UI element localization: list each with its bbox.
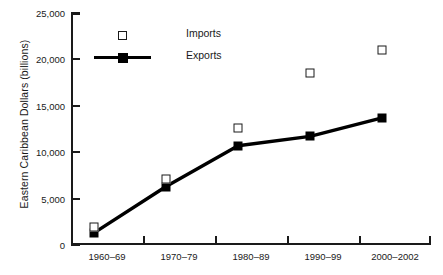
legend-label-imports: Imports bbox=[186, 27, 221, 39]
chart-container: Eastern Caribbean Dollars (billions) 05,… bbox=[0, 0, 443, 275]
y-tick-label: 25,000 bbox=[36, 8, 65, 19]
data-point-exports bbox=[234, 141, 243, 150]
filled-square-icon bbox=[118, 53, 128, 63]
data-point-exports bbox=[306, 132, 315, 141]
data-point-imports bbox=[90, 223, 99, 232]
data-point-imports bbox=[306, 69, 315, 78]
data-point-imports bbox=[234, 124, 243, 133]
y-axis-title: Eastern Caribbean Dollars (billions) bbox=[18, 14, 30, 234]
data-point-imports bbox=[378, 46, 387, 55]
open-square-icon bbox=[118, 31, 127, 40]
y-tick-label: 15,000 bbox=[36, 100, 65, 111]
y-tick-label: 20,000 bbox=[36, 54, 65, 65]
data-point-imports bbox=[162, 175, 171, 184]
data-point-exports bbox=[378, 113, 387, 122]
x-tick-label: 1970–79 bbox=[161, 251, 198, 262]
y-tick-label: 0 bbox=[60, 240, 65, 251]
x-tick-label: 2000–2002 bbox=[371, 251, 419, 262]
plot-area: 05,00010,00015,00020,00025,000 1960–6919… bbox=[71, 13, 431, 245]
x-tick-label: 1960–69 bbox=[89, 251, 126, 262]
legend-label-exports: Exports bbox=[186, 49, 222, 61]
x-tick-label: 1980–89 bbox=[233, 251, 270, 262]
y-tick-label: 10,000 bbox=[36, 147, 65, 158]
x-tick-label: 1990–99 bbox=[305, 251, 342, 262]
y-tick-label: 5,000 bbox=[41, 193, 65, 204]
